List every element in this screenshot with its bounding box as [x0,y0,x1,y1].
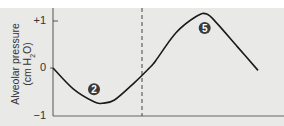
ytick-label-0: 0 [26,61,46,73]
step-marker-label: 2 [91,84,97,95]
pressure-curve [53,13,258,103]
y-axis-label-line1: Alveolar pressure [9,23,21,105]
ytick-label-plus1: +1 [26,14,46,26]
step-marker-label: 5 [202,23,208,34]
ytick-label-minus1: −1 [26,109,46,121]
annotation-markers: 25 [88,22,211,95]
